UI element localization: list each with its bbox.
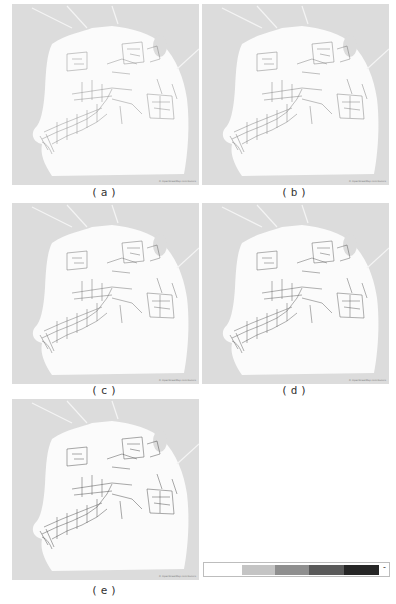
lake	[153, 35, 167, 57]
map-panel-b: © OpenStreetMap contributors	[202, 4, 389, 185]
legend-band-3	[309, 565, 344, 575]
legend-band-4	[344, 565, 379, 575]
lake	[343, 234, 357, 256]
legend-band-1	[242, 565, 275, 575]
legend-band-0	[205, 565, 242, 575]
map-attribution: © OpenStreetMap contributors	[159, 575, 196, 578]
map-panel-c: © OpenStreetMap contributors	[12, 203, 199, 384]
map-panel-d: © OpenStreetMap contributors	[202, 203, 389, 384]
panel-caption-d: (d)	[202, 384, 389, 397]
map-attribution: © OpenStreetMap contributors	[349, 180, 386, 183]
panel-caption-c: (c)	[12, 384, 199, 397]
map-panel-e: © OpenStreetMap contributors	[12, 399, 199, 580]
lake	[153, 234, 167, 256]
legend-band-2	[275, 565, 309, 575]
lake	[153, 430, 167, 452]
panel-caption-b: (b)	[202, 186, 389, 199]
legend-end-symbol: -	[383, 563, 386, 572]
map-attribution: © OpenStreetMap contributors	[159, 180, 196, 183]
map-panel-a: © OpenStreetMap contributors	[12, 4, 199, 185]
panel-caption-e: (e)	[12, 584, 199, 597]
map-attribution: © OpenStreetMap contributors	[159, 379, 196, 382]
lake	[343, 35, 357, 57]
map-image	[12, 203, 199, 384]
map-image	[12, 4, 199, 185]
color-legend: -	[203, 562, 390, 577]
panel-caption-a: (a)	[12, 186, 199, 199]
map-image	[202, 203, 389, 384]
map-image	[202, 4, 389, 185]
map-attribution: © OpenStreetMap contributors	[349, 379, 386, 382]
map-image	[12, 399, 199, 580]
